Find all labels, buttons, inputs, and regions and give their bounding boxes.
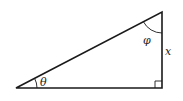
triangle-diagram: θ φ x [0, 0, 183, 101]
side-x-label: x [165, 45, 172, 58]
theta-angle-arc [35, 78, 37, 88]
right-triangle [16, 12, 162, 88]
theta-label: θ [40, 76, 47, 89]
right-angle-marker [155, 81, 162, 88]
phi-angle-arc [143, 22, 162, 33]
phi-label: φ [143, 34, 151, 47]
